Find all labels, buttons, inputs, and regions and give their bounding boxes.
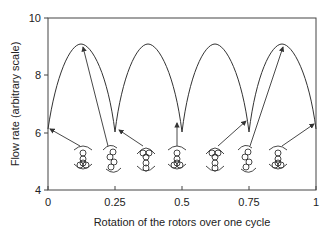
rotor-diagram-icon	[269, 146, 287, 169]
arrow	[218, 121, 246, 146]
rotor-diagram-icon	[168, 146, 186, 169]
rotor-diagram-icon	[137, 148, 155, 171]
y-axis-label: Flow rate (arbitrary scale)	[9, 42, 21, 167]
y-tick-label: 10	[29, 12, 41, 24]
flow-rate-curve	[48, 44, 316, 132]
x-tick-label: 0.25	[104, 196, 125, 208]
arrow	[119, 130, 143, 146]
rotor-diagram-icon	[238, 145, 256, 172]
y-axis	[44, 18, 48, 190]
arrow	[50, 129, 80, 146]
plot-frame	[48, 18, 316, 190]
rotor-diagram-icon	[206, 148, 224, 171]
y-tick-labels: 10 8 6 4	[29, 12, 41, 196]
x-tick-label: 0.75	[238, 196, 259, 208]
x-tick-label: 0	[45, 196, 51, 208]
y-tick-label: 6	[35, 127, 41, 139]
arrow	[83, 47, 108, 146]
x-tick-label: 0.5	[174, 196, 189, 208]
rotor-diagram-icon	[103, 145, 121, 172]
arrow	[282, 124, 314, 146]
x-axis-label: Rotation of the rotors over one cycle	[94, 216, 271, 228]
y-tick-label: 8	[35, 69, 41, 81]
x-tick-labels: 0 0.25 0.5 0.75 1	[45, 196, 319, 208]
x-tick-label: 1	[313, 196, 319, 208]
rotor-diagram-icon	[74, 146, 92, 169]
y-tick-label: 4	[35, 184, 41, 196]
rotor-diagrams	[74, 145, 287, 172]
x-axis	[48, 186, 316, 190]
flow-rate-chart: 10 8 6 4 0 0.25 0.5 0.75 1 Rotation of t…	[0, 0, 329, 236]
